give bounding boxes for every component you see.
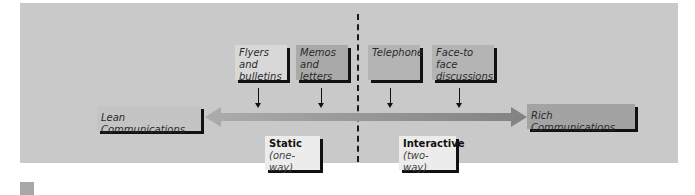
interactive-mode-box: Interactive (two-way) xyxy=(399,136,456,170)
media-label-line1: Flyers and xyxy=(239,47,283,71)
static-mode-box: Static (one-way) xyxy=(265,136,320,170)
static-title: Static xyxy=(269,138,316,150)
interactive-title: Interactive xyxy=(403,138,452,150)
lean-rich-double-arrow-icon xyxy=(205,106,527,128)
media-box-face-to-face: Face-to face discussions xyxy=(432,45,494,80)
media-label-line1: Memos xyxy=(300,47,344,59)
figure-marker xyxy=(20,182,34,195)
media-label-line2: discussions xyxy=(436,71,490,83)
rich-communications-box: Rich Communications xyxy=(527,104,635,129)
media-box-flyers: Flyers and bulletins xyxy=(235,45,287,80)
lean-communications-box: Lean Communications xyxy=(97,106,201,131)
media-box-memos: Memos and letters xyxy=(296,45,348,80)
media-label-line2: bulletins xyxy=(239,71,283,83)
diagram-panel xyxy=(20,3,678,163)
media-box-telephone: Telephone xyxy=(368,45,420,80)
static-interactive-divider xyxy=(357,14,359,162)
interactive-subtitle: (two-way) xyxy=(403,150,452,174)
media-label-line1: Telephone xyxy=(372,47,416,59)
static-subtitle: (one-way) xyxy=(269,150,316,174)
lean-communications-label: Lean Communications xyxy=(101,112,185,135)
down-arrow-icon xyxy=(258,88,259,104)
down-arrow-icon xyxy=(390,88,391,104)
media-label-line2: and letters xyxy=(300,59,344,83)
down-arrow-icon xyxy=(321,88,322,104)
down-arrow-icon xyxy=(459,88,460,104)
rich-communications-label: Rich Communications xyxy=(531,110,615,133)
media-label-line1: Face-to face xyxy=(436,47,490,71)
